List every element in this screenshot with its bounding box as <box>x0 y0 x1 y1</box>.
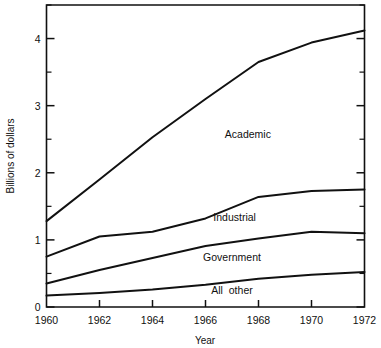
x-tick-label: 1962 <box>88 314 112 326</box>
y-axis-title: Billions of dollars <box>5 118 16 193</box>
y-tick-label: 1 <box>35 234 41 246</box>
y-axis-tick-labels: 01234 <box>35 33 41 313</box>
series-label-industrial: Industrial <box>213 211 256 223</box>
x-tick-label: 1966 <box>194 314 218 326</box>
y-tick-label: 4 <box>35 33 41 45</box>
x-tick-label: 1972 <box>353 314 377 326</box>
series-label-government: Government <box>203 251 261 263</box>
series-label-all-other: All other <box>211 284 253 296</box>
series-label-academic: Academic <box>225 128 271 140</box>
x-tick-label: 1970 <box>300 314 324 326</box>
x-axis-tick-labels: 1960196219641966196819701972 <box>35 314 377 326</box>
series-line-all-other <box>47 272 365 295</box>
series-annotations: All otherGovernmentIndustrialAcademic <box>203 128 271 296</box>
y-tick-label: 2 <box>35 167 41 179</box>
x-tick-label: 1960 <box>35 314 59 326</box>
x-tick-label: 1964 <box>141 314 165 326</box>
x-tick-label: 1968 <box>247 314 271 326</box>
y-tick-label: 0 <box>35 301 41 313</box>
series-line-academic <box>47 31 365 222</box>
y-tick-label: 3 <box>35 100 41 112</box>
x-axis-title: Year <box>195 335 216 346</box>
chart-canvas: 01234 1960196219641966196819701972 All o… <box>0 0 381 348</box>
line-chart: 01234 1960196219641966196819701972 All o… <box>0 0 381 348</box>
